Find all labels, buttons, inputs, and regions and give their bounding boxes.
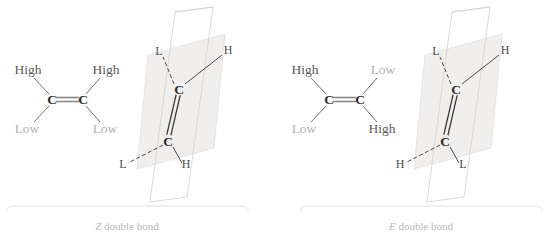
z-perspective-label-upper-back: L [155,44,162,58]
e-caption-rest: double bond [396,220,454,232]
z-skeletal-bond-bottom-right [86,106,100,122]
e-perspective-structure: C C L H H L [396,7,510,202]
e-skeletal-bond-bottom-left [311,106,326,122]
e-skeletal-atom-left: C [324,92,334,107]
e-perspective-label-lower-back: H [396,157,405,171]
e-caption-group: E double bond [300,206,543,232]
z-skeletal-label-top-left: High [15,62,42,77]
e-caption: E double bond [388,220,454,232]
z-perspective-atom-upper: C [174,82,184,97]
e-skeletal-bond-top-right [363,78,377,94]
z-brace [6,206,249,211]
z-vertical-plane-top-edge [175,7,213,12]
e-brace [300,206,543,211]
e-skeletal-label-bottom-left: Low [292,121,317,136]
z-skeletal-label-bottom-left: Low [15,121,40,136]
z-caption-rest: double bond [101,220,159,232]
figure-root: C C High High Low Low [0,0,545,243]
z-caption: Z double bond [95,220,159,232]
e-panel: C C High Low Low High C [292,7,544,232]
e-skeletal-label-bottom-right: High [369,121,396,136]
e-perspective-label-lower-front: L [459,157,466,171]
e-skeletal-label-top-left: High [292,62,319,77]
e-perspective-atom-lower: C [440,134,450,149]
e-skeletal-atom-right: C [355,92,365,107]
z-skeletal-label-top-right: High [93,62,120,77]
z-perspective-label-lower-front: H [182,157,191,171]
z-perspective-label-upper-front: H [224,43,233,57]
e-perspective-atom-upper: C [451,82,461,97]
chemistry-figure: C C High High Low Low [0,0,545,243]
z-caption-group: Z double bond [6,206,249,232]
e-horizontal-plane [414,34,502,169]
z-perspective-structure: C C L H L H [119,7,232,202]
z-skeletal-bond-top-right [86,78,100,94]
e-perspective-label-upper-back: L [432,44,439,58]
z-perspective-atom-lower: C [163,134,173,149]
z-skeletal-bond-bottom-left [34,106,49,122]
e-vertical-plane-top-edge [452,7,490,12]
z-skeletal-structure: C C High High Low Low [15,62,120,136]
z-skeletal-atom-right: C [78,92,88,107]
z-perspective-label-lower-back: L [119,157,126,171]
e-skeletal-structure: C C High Low Low High [292,62,396,136]
z-panel: C C High High Low Low [6,7,249,232]
z-skeletal-atom-left: C [47,92,57,107]
z-horizontal-plane [137,34,225,169]
e-skeletal-label-top-right: Low [371,62,396,77]
e-skeletal-bond-bottom-right [363,106,377,122]
e-perspective-label-upper-front: H [501,43,510,57]
z-skeletal-label-bottom-right: Low [93,121,118,136]
